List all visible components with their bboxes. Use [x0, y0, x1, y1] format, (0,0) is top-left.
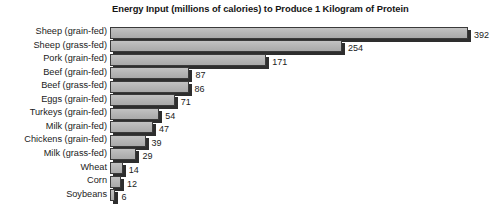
chart-bar-row: Beef (grain-fed)87 — [0, 67, 503, 81]
category-label: Milk (grain-fed) — [0, 121, 107, 132]
category-label: Turkeys (grain-fed) — [0, 107, 107, 118]
bar — [110, 94, 175, 106]
bar-face — [110, 148, 136, 160]
chart-bar-row: Soybeans6 — [0, 189, 503, 203]
chart-bar-row: Pork (grain-fed)171 — [0, 53, 503, 67]
bar-face — [110, 135, 146, 147]
bar — [110, 162, 123, 174]
chart-bar-row: Turkeys (grain-fed)54 — [0, 107, 503, 121]
category-label: Soybeans — [0, 189, 107, 200]
bar-value-label: 254 — [348, 43, 363, 53]
bar-face — [110, 121, 153, 133]
bar-value-label: 71 — [181, 97, 191, 107]
category-label: Eggs (grain-fed) — [0, 94, 107, 105]
bar-face — [110, 54, 266, 66]
chart-bar-row: Beef (grass-fed)86 — [0, 80, 503, 94]
category-label: Sheep (grain-fed) — [0, 26, 107, 37]
bar — [110, 189, 115, 201]
bar-value-label: 12 — [127, 179, 137, 189]
chart-bar-row: Milk (grain-fed)47 — [0, 121, 503, 135]
chart-bar-row: Sheep (grain-fed)392 — [0, 26, 503, 40]
bar-face — [110, 162, 123, 174]
category-label: Corn — [0, 175, 107, 186]
bar — [110, 135, 146, 147]
chart-bar-row: Wheat14 — [0, 162, 503, 176]
bar-value-label: 86 — [195, 84, 205, 94]
chart-title: Energy Input (millions of calories) to P… — [112, 3, 409, 14]
bar — [110, 148, 136, 160]
energy-input-bar-chart: Energy Input (millions of calories) to P… — [0, 0, 503, 214]
plot-area: Sheep (grain-fed)392Sheep (grass-fed)254… — [0, 26, 503, 211]
chart-bar-row: Sheep (grass-fed)254 — [0, 40, 503, 54]
chart-bar-row: Corn12 — [0, 175, 503, 189]
bar-value-label: 392 — [474, 30, 489, 40]
bar-face — [110, 67, 189, 79]
bar-face — [110, 189, 115, 201]
bar-face — [110, 176, 121, 188]
bar — [110, 54, 266, 66]
category-label: Milk (grass-fed) — [0, 148, 107, 159]
chart-bar-row: Chickens (grain-fed)39 — [0, 134, 503, 148]
bar-value-label: 54 — [165, 111, 175, 121]
category-label: Sheep (grass-fed) — [0, 40, 107, 51]
bar-value-label: 14 — [129, 165, 139, 175]
category-label: Beef (grain-fed) — [0, 67, 107, 78]
bar-value-label: 6 — [121, 192, 126, 202]
bar-value-label: 47 — [159, 124, 169, 134]
bar — [110, 67, 189, 79]
chart-bar-row: Milk (grass-fed)29 — [0, 148, 503, 162]
bar — [110, 108, 159, 120]
category-label: Wheat — [0, 162, 107, 173]
bar-value-label: 29 — [142, 151, 152, 161]
bar-face — [110, 94, 175, 106]
bar-value-label: 39 — [152, 138, 162, 148]
bar — [110, 81, 189, 93]
bar — [110, 176, 121, 188]
bar-face — [110, 40, 342, 52]
category-label: Pork (grain-fed) — [0, 53, 107, 64]
bar-face — [110, 81, 189, 93]
chart-bar-row: Eggs (grain-fed)71 — [0, 94, 503, 108]
bar-value-label: 171 — [272, 57, 287, 67]
category-label: Chickens (grain-fed) — [0, 134, 107, 145]
bar-face — [110, 108, 159, 120]
bar — [110, 27, 468, 39]
category-label: Beef (grass-fed) — [0, 80, 107, 91]
bar-value-label: 87 — [195, 70, 205, 80]
bar — [110, 121, 153, 133]
bar — [110, 40, 342, 52]
bar-face — [110, 27, 468, 39]
